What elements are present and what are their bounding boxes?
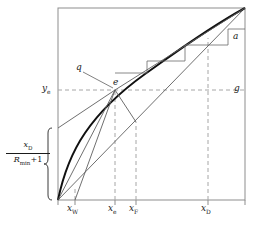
rectifying-line-intercept-extension [58, 90, 115, 128]
stripping-line-from-xw [75, 90, 115, 200]
x-tick-label-xe: xe [108, 203, 117, 215]
point-label-a: a [233, 31, 238, 41]
fraction-numerator: xD [6, 140, 50, 153]
intercept-fraction-label: xD Rmin+1 [6, 140, 50, 166]
step-1 [115, 61, 147, 73]
q-callout-leader [83, 72, 113, 88]
plot-svg [0, 0, 256, 225]
mccabe-thiele-figure: xW xe xF xD ye a g e q xD Rmin+1 [0, 0, 256, 225]
stripping-operating-line [58, 90, 115, 200]
point-label-g: g [234, 83, 240, 93]
y-tick-label-ye: ye [42, 83, 51, 95]
x-tick-label-xd: xD [201, 203, 211, 215]
x-tick-label-xw: xW [67, 203, 78, 215]
dashed-guides [58, 38, 245, 200]
point-label-e: e [113, 77, 118, 87]
diagonal-line [58, 8, 245, 200]
point-label-q: q [76, 62, 82, 72]
fraction-denominator: Rmin+1 [6, 153, 50, 167]
q-line [115, 90, 136, 122]
x-tick-label-xf: xF [129, 203, 138, 215]
staircase-steps [115, 29, 245, 73]
x-axis-ticks [58, 200, 245, 205]
rectifying-operating-line [115, 8, 245, 90]
